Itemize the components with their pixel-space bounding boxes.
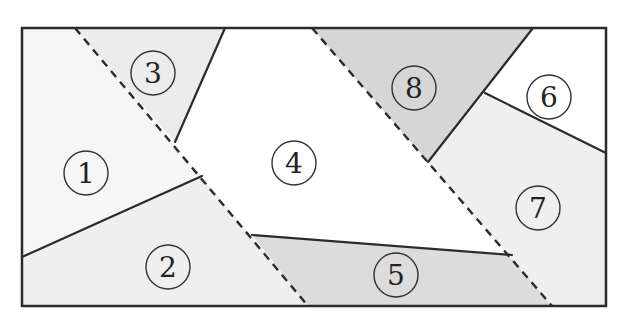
region-number: 2 <box>159 251 177 284</box>
partition-diagram: 12345678 <box>0 0 623 320</box>
region-number: 4 <box>285 147 303 180</box>
region-number: 5 <box>387 259 405 292</box>
region-number: 3 <box>144 57 162 90</box>
region-number: 1 <box>77 157 95 190</box>
region-number: 6 <box>540 81 558 114</box>
region-number: 8 <box>405 72 423 105</box>
region-number: 7 <box>529 192 547 225</box>
regions-layer <box>22 28 606 306</box>
